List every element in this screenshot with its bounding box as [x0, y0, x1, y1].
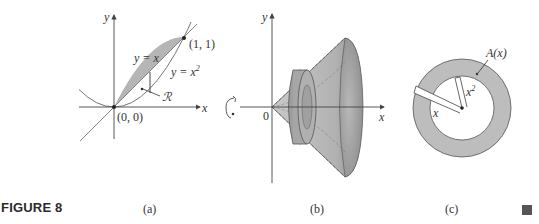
panel-b: y x 0	[226, 10, 385, 183]
y-axis-label-a: y	[103, 10, 110, 24]
region-label: ℛ	[162, 90, 173, 104]
caption-b: (b)	[310, 202, 324, 217]
point-origin-label: (0, 0)	[117, 110, 143, 124]
cone-cap	[340, 38, 364, 177]
point-1-1	[182, 36, 186, 40]
figure-canvas: y x (1, 1) (0, 0) y = x y = x2 ℛ y	[0, 0, 539, 224]
rotation-arrow-icon	[226, 96, 236, 118]
center-point	[460, 106, 464, 110]
figure-title: FIGURE 8	[1, 200, 63, 215]
x-axis-label-a: x	[201, 101, 208, 115]
panel-c: A(x) x x2	[413, 46, 511, 157]
end-of-example-square-icon	[522, 205, 532, 215]
point-1-1-label: (1, 1)	[189, 37, 215, 51]
outer-radius-label: x	[432, 106, 439, 120]
x-axis-label-b: x	[378, 110, 385, 124]
caption-a: (a)	[143, 202, 156, 217]
curve-label: y = x2	[170, 64, 200, 79]
panel-a: y x (1, 1) (0, 0) y = x y = x2 ℛ	[79, 10, 215, 141]
area-label: A(x)	[485, 46, 507, 60]
y-axis-label-b: y	[261, 10, 268, 24]
caption-c: (c)	[445, 202, 458, 217]
line-label: y = x	[133, 51, 159, 65]
origin-label-b: 0	[263, 109, 269, 123]
point-origin	[112, 105, 116, 109]
